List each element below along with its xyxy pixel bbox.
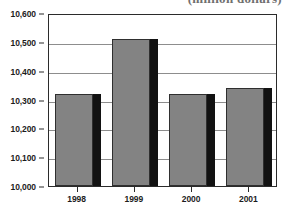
- chart-title: (million dollars): [188, 0, 282, 7]
- x-axis-tick-label: 2000: [182, 194, 201, 204]
- bar: [112, 39, 158, 186]
- x-axis-tick-label: 1998: [67, 194, 86, 204]
- y-axis-tick-mark: [39, 129, 44, 130]
- x-axis-tick-label: 2001: [239, 194, 258, 204]
- bar: [169, 94, 215, 186]
- y-axis-tick-label: 10,500: [11, 38, 36, 48]
- bar-shadow-edge: [264, 88, 272, 186]
- bar-shadow-edge: [207, 94, 215, 186]
- bar-face: [55, 94, 93, 186]
- y-axis-tick-mark: [39, 158, 44, 159]
- y-axis-tick-label: 10,400: [11, 67, 36, 77]
- y-axis-tick-label: 10,600: [11, 9, 36, 19]
- y-axis-tick-mark: [39, 71, 44, 72]
- x-axis: 1998199920002001: [48, 187, 277, 217]
- y-axis-tick-mark: [39, 100, 44, 101]
- gridline: [49, 44, 276, 45]
- bar: [226, 88, 272, 186]
- plot-area: [48, 14, 277, 187]
- bar-chart-figure: (million dollars) 10,00010,10010,20010,3…: [0, 0, 290, 217]
- bar-face: [112, 39, 150, 186]
- x-axis-tick-mark: [77, 187, 78, 192]
- y-axis-tick-label: 10,200: [11, 124, 36, 134]
- bar-face: [169, 94, 207, 186]
- x-axis-tick-mark: [134, 187, 135, 192]
- y-axis-tick-mark: [39, 187, 44, 188]
- bar-shadow-edge: [150, 39, 158, 186]
- y-axis-tick-label: 10,000: [11, 182, 36, 192]
- x-axis-tick-mark: [191, 187, 192, 192]
- x-axis-tick-mark: [248, 187, 249, 192]
- y-axis-tick-mark: [39, 14, 44, 15]
- gridline: [49, 73, 276, 74]
- bar: [55, 94, 101, 186]
- bar-shadow-edge: [93, 94, 101, 186]
- y-axis-tick-label: 10,300: [11, 96, 36, 106]
- y-axis-tick-mark: [39, 42, 44, 43]
- y-axis-tick-label: 10,100: [11, 153, 36, 163]
- x-axis-tick-label: 1999: [124, 194, 143, 204]
- bar-face: [226, 88, 264, 186]
- y-axis: 10,00010,10010,20010,30010,40010,50010,6…: [0, 14, 44, 187]
